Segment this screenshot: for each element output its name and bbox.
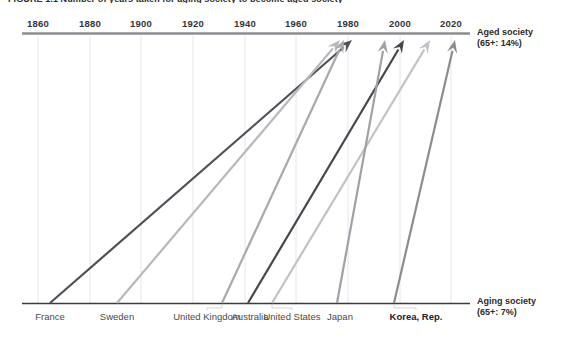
arrow-head-australia bbox=[393, 40, 404, 54]
arrow-head-united-states bbox=[419, 40, 430, 54]
tick-label-1940: 1940 bbox=[217, 18, 273, 29]
aging-society-annotation: Aging society (65+: 7%) bbox=[477, 296, 536, 318]
tick-label-2020: 2020 bbox=[423, 18, 479, 29]
tick-label-1860: 1860 bbox=[10, 18, 66, 29]
tick-label-2000: 2000 bbox=[372, 18, 428, 29]
aged-society-annotation: Aged society (65+: 14%) bbox=[477, 27, 533, 49]
tick-label-1920: 1920 bbox=[165, 18, 221, 29]
leader-line-korea-rep bbox=[394, 304, 416, 310]
leader-line-united-kingdom bbox=[207, 304, 222, 310]
country-label-korea-rep: Korea, Rep. bbox=[381, 311, 451, 323]
aged-society-line2: (65+: 14%) bbox=[477, 38, 533, 49]
aging-society-line2: (65+: 7%) bbox=[477, 307, 536, 318]
tick-label-1980: 1980 bbox=[320, 18, 376, 29]
aging-society-line1: Aging society bbox=[477, 296, 536, 307]
aged-society-line1: Aged society bbox=[477, 27, 533, 38]
country-label-japan: Japan bbox=[305, 311, 375, 323]
country-label-sweden: Sweden bbox=[82, 311, 152, 323]
arrow-shaft-france bbox=[50, 47, 344, 303]
tick-label-1880: 1880 bbox=[62, 18, 118, 29]
country-arrows-group bbox=[50, 40, 457, 303]
arrow-shaft-korea-rep bbox=[394, 51, 453, 303]
arrow-shaft-united-kingdom bbox=[222, 50, 339, 303]
tick-label-1900: 1900 bbox=[113, 18, 169, 29]
leader-line-united-states bbox=[272, 304, 292, 310]
gridlines-group bbox=[38, 36, 451, 303]
label-leader-lines-group bbox=[207, 304, 416, 310]
arrow-shaft-japan bbox=[337, 51, 383, 303]
chart-root: FIGURE 1.1 Number of years taken for agi… bbox=[0, 0, 588, 349]
country-label-france: France bbox=[15, 311, 85, 323]
tick-label-1960: 1960 bbox=[268, 18, 324, 29]
arrow-shaft-sweden bbox=[117, 48, 333, 303]
